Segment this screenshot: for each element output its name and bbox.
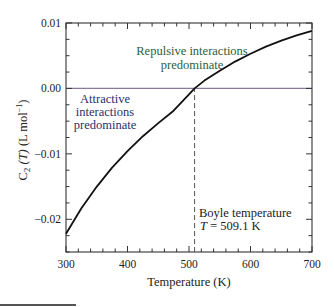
annotation-boyle: Boyle temperature T = 509.1 K <box>199 206 292 233</box>
annotation-repulsive: Repulsive interactions predominate <box>136 44 248 72</box>
y-tick-label: 0.01 <box>41 17 61 29</box>
annotation-attractive-line1: Attractive <box>80 92 130 106</box>
annotation-boyle-line1: Boyle temperature <box>199 206 292 220</box>
y-axis-title: C2 (T) (L mol−1) <box>15 100 32 181</box>
annotation-boyle-line2: T = 509.1 K <box>200 219 261 233</box>
x-tick-label: 300 <box>57 258 75 270</box>
annotation-repulsive-line1: Repulsive interactions <box>136 44 248 58</box>
y-tick-label: 0.00 <box>41 82 61 94</box>
annotation-attractive-line2: interactions <box>76 105 134 119</box>
x-tick-label: 400 <box>119 258 137 270</box>
virial-coefficient-chart: 300400500600700 0.010.00−0.01−0.02 Tempe… <box>0 0 334 307</box>
x-tick-label: 700 <box>303 258 321 270</box>
y-tick-label: −0.02 <box>34 213 61 225</box>
x-tick-label: 600 <box>242 258 260 270</box>
footer-rule <box>0 304 76 306</box>
annotation-repulsive-line2: predominate <box>161 58 224 72</box>
annotation-attractive: Attractive interactions predominate <box>74 92 137 132</box>
annotation-attractive-line3: predominate <box>74 118 137 132</box>
x-axis-title: Temperature (K) <box>147 275 230 289</box>
x-tick-label: 500 <box>180 258 198 270</box>
y-tick-label: −0.01 <box>34 148 61 160</box>
